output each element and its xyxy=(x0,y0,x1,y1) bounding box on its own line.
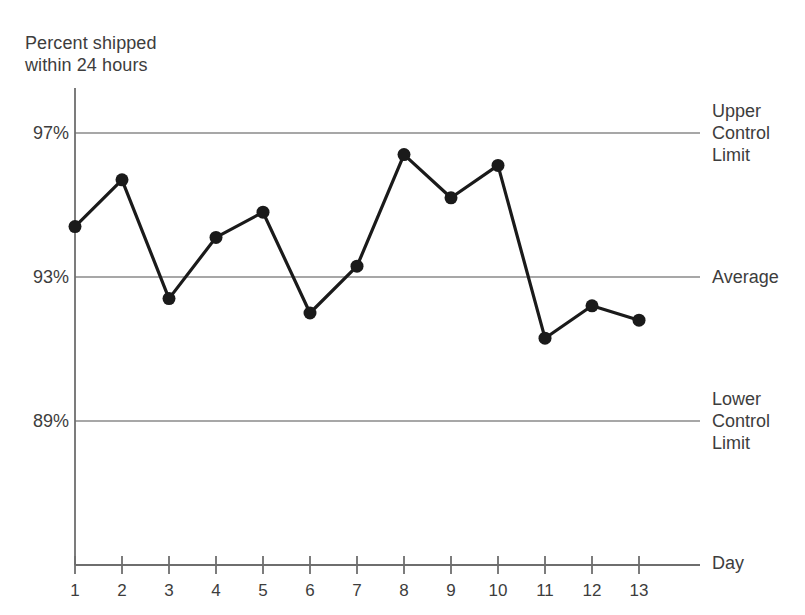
x-tick-label: 4 xyxy=(211,581,220,601)
data-point[interactable] xyxy=(539,332,552,345)
data-point[interactable] xyxy=(351,260,364,273)
x-tick-label: 5 xyxy=(258,581,267,601)
x-tick-label: 12 xyxy=(583,581,602,601)
data-point[interactable] xyxy=(304,307,317,320)
data-point[interactable] xyxy=(398,148,411,161)
x-tick-label: 11 xyxy=(536,581,554,601)
x-axis-name: Day xyxy=(712,553,744,574)
x-tick-label: 3 xyxy=(164,581,173,601)
x-tick-label: 10 xyxy=(489,581,508,601)
label-lower-control-limit: Lower Control Limit xyxy=(712,388,770,454)
x-tick-label: 7 xyxy=(352,581,361,601)
x-tick-label: 9 xyxy=(446,581,455,601)
y-tick-label: 93% xyxy=(17,267,69,288)
data-point[interactable] xyxy=(633,314,646,327)
data-point[interactable] xyxy=(586,299,599,312)
data-point[interactable] xyxy=(492,159,505,172)
label-average: Average xyxy=(712,266,779,288)
x-tick-label: 8 xyxy=(399,581,408,601)
data-point[interactable] xyxy=(163,292,176,305)
control-chart: Percent shipped within 24 hours 97%93%89… xyxy=(0,0,805,615)
y-tick-label: 97% xyxy=(17,123,69,144)
x-tick-label: 2 xyxy=(117,581,126,601)
data-point[interactable] xyxy=(257,206,270,219)
data-point[interactable] xyxy=(69,220,82,233)
label-upper-control-limit: Upper Control Limit xyxy=(712,100,770,166)
y-tick-label: 89% xyxy=(17,411,69,432)
x-tick-label: 1 xyxy=(70,581,79,601)
x-tick-label: 6 xyxy=(305,581,314,601)
data-point[interactable] xyxy=(210,231,223,244)
chart-plot-area xyxy=(0,0,805,615)
data-line xyxy=(75,155,639,339)
data-point[interactable] xyxy=(445,191,458,204)
x-tick-label: 13 xyxy=(630,581,649,601)
data-point[interactable] xyxy=(116,173,129,186)
